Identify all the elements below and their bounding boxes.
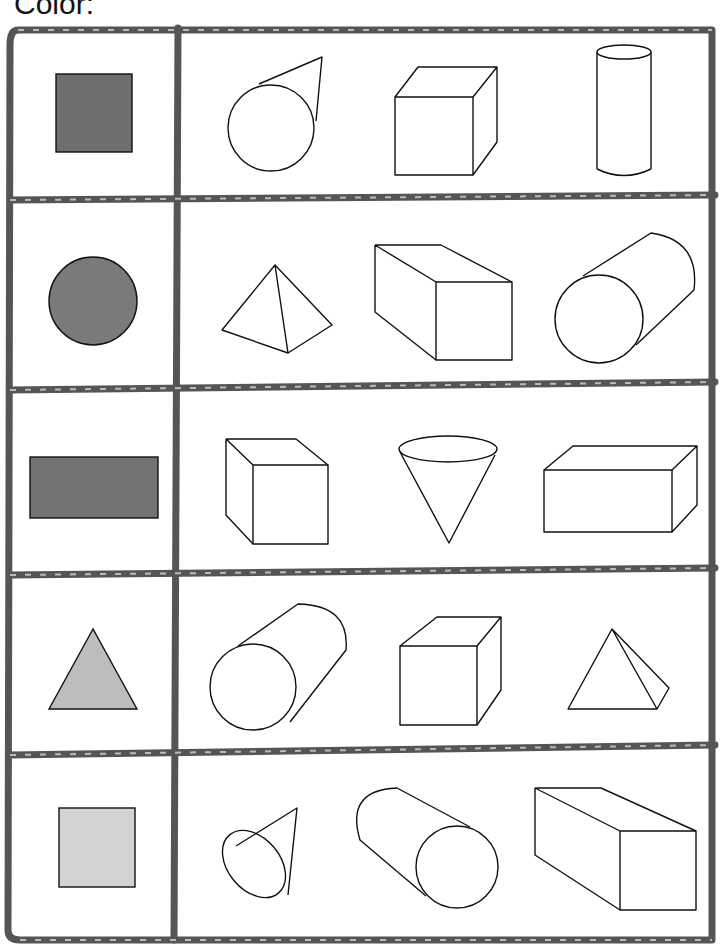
cube-icon[interactable] bbox=[395, 67, 497, 175]
row-3 bbox=[30, 436, 697, 544]
cylinder-icon[interactable] bbox=[597, 45, 651, 176]
key-triangle-light[interactable] bbox=[49, 629, 137, 709]
key-square-dark[interactable] bbox=[56, 74, 132, 152]
row-1 bbox=[56, 45, 651, 176]
key-square-light[interactable] bbox=[59, 808, 135, 887]
key-rectangle-dark[interactable] bbox=[30, 457, 158, 518]
rectangular-prism-icon[interactable] bbox=[375, 245, 512, 360]
cone-icon[interactable] bbox=[210, 808, 299, 910]
cylinder-icon[interactable] bbox=[357, 788, 498, 908]
key-circle-dark[interactable] bbox=[49, 257, 137, 345]
row-4 bbox=[49, 604, 669, 730]
cone-icon[interactable] bbox=[399, 436, 497, 543]
row-5 bbox=[59, 788, 696, 910]
rectangular-prism-icon[interactable] bbox=[544, 446, 697, 532]
cone-icon[interactable] bbox=[228, 57, 322, 171]
cube-icon[interactable] bbox=[226, 439, 328, 544]
worksheet-grid bbox=[0, 0, 722, 948]
cylinder-icon[interactable] bbox=[555, 233, 695, 363]
square-pyramid-icon[interactable] bbox=[222, 265, 332, 353]
rectangular-prism-icon[interactable] bbox=[535, 788, 696, 910]
cube-icon[interactable] bbox=[400, 617, 501, 725]
row-2 bbox=[49, 233, 695, 363]
cylinder-icon[interactable] bbox=[210, 604, 346, 730]
triangular-pyramid-icon[interactable] bbox=[568, 629, 669, 709]
